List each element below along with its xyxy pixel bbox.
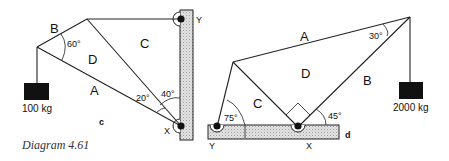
angle-arc-30	[383, 24, 388, 36]
member-label-d: D	[301, 66, 310, 81]
member-label-c: C	[140, 36, 149, 51]
support-label-x: X	[164, 126, 170, 136]
member-label-a: A	[300, 29, 309, 44]
member-a	[233, 17, 410, 62]
member-label-c: C	[253, 96, 262, 111]
diagram-c: B C D A 60° 20° 40° Y X 100 kg c	[22, 10, 202, 140]
support-label-y: Y	[209, 141, 215, 151]
diagram-tag-d: d	[345, 130, 351, 140]
support-label-x: X	[306, 141, 312, 151]
right-angle-marker	[286, 103, 310, 115]
member-label-a: A	[90, 83, 99, 98]
angle-arc-60	[61, 34, 65, 60]
pin-x	[294, 122, 301, 129]
member-label-d: D	[88, 52, 97, 67]
angle-label-30: 30°	[369, 31, 383, 41]
diagram-d: A D B C 75° 30° 45° Y X 2000 kg d	[208, 17, 429, 151]
member-diagonal	[87, 19, 181, 126]
weight-block	[24, 83, 49, 100]
load-label: 2000 kg	[393, 102, 429, 113]
figure-caption: Diagram 4.61	[21, 138, 89, 152]
angle-arc-20	[157, 108, 165, 112]
angle-label-20: 20°	[136, 93, 150, 103]
member-label-b: B	[50, 21, 59, 36]
diagram-canvas: B C D A 60° 20° 40° Y X 100 kg c	[0, 0, 449, 161]
angle-label-40: 40°	[161, 89, 175, 99]
angle-label-75: 75°	[224, 113, 238, 123]
angle-arc-45	[316, 109, 326, 125]
pin-x	[177, 122, 184, 129]
pin-y	[177, 15, 184, 22]
member-a	[37, 47, 181, 126]
load-label: 100 kg	[22, 103, 52, 114]
member-label-b: B	[363, 73, 372, 88]
weight-block	[399, 82, 423, 99]
base-plate	[208, 125, 339, 139]
angle-label-60: 60°	[67, 39, 81, 49]
support-label-y: Y	[196, 15, 202, 25]
angle-label-45: 45°	[328, 111, 342, 121]
diagram-tag-c: c	[99, 117, 104, 127]
wall-support	[180, 10, 193, 140]
pin-y	[213, 122, 220, 129]
